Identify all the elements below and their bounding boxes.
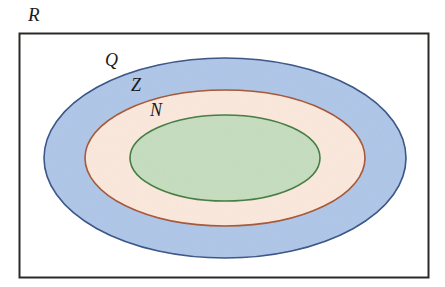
- euler-diagram: [0, 0, 445, 287]
- set-label-R: R: [28, 5, 40, 24]
- set-ellipse-N: [130, 115, 320, 201]
- set-label-Z: Z: [131, 76, 141, 94]
- diagram-canvas: R Q Z N: [0, 0, 445, 287]
- set-label-N: N: [150, 101, 162, 119]
- set-label-Q: Q: [105, 51, 118, 69]
